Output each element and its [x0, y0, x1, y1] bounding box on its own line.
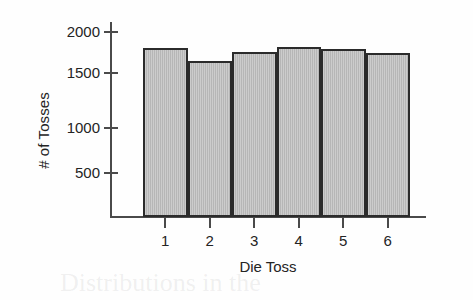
y-tick-label-1000: 1000: [44, 120, 100, 135]
x-tick-label-2: 2: [190, 232, 230, 249]
x-tick-2: [209, 218, 211, 228]
bar-5: [321, 49, 366, 217]
y-tick-1000: [104, 127, 118, 129]
bar-2: [188, 61, 233, 217]
bar-6: [366, 53, 411, 217]
x-tick-label-1: 1: [145, 232, 185, 249]
bar-4: [277, 47, 322, 218]
y-tick-500: [104, 172, 118, 174]
x-tick-label-4: 4: [279, 232, 319, 249]
x-tick-6: [387, 218, 389, 228]
x-tick-5: [342, 218, 344, 228]
x-tick-3: [253, 218, 255, 228]
x-tick-4: [298, 218, 300, 228]
y-tick-label-1500: 1500: [44, 65, 100, 80]
x-tick-label-3: 3: [234, 232, 274, 249]
y-axis-line: [110, 22, 112, 218]
bar-chart-figure: tribution of Distributions in the # of T…: [0, 0, 473, 300]
y-tick-1500: [104, 72, 118, 74]
bar-3: [232, 52, 277, 218]
y-tick-label-500: 500: [44, 165, 100, 180]
x-tick-label-5: 5: [323, 232, 363, 249]
bar-1: [143, 48, 188, 217]
x-tick-1: [164, 218, 166, 228]
y-tick-2000: [104, 31, 118, 33]
x-tick-label-6: 6: [368, 232, 408, 249]
x-axis-title: Die Toss: [110, 258, 426, 275]
y-tick-label-2000: 2000: [44, 24, 100, 39]
